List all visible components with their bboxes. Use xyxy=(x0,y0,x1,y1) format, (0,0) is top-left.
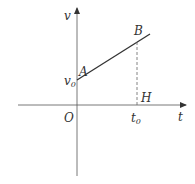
vt-diagram: v t O A B H v0 t0 xyxy=(0,0,195,184)
t0-label: t0 xyxy=(131,111,141,126)
point-a-label: A xyxy=(78,65,88,79)
t-axis-label: t xyxy=(178,110,183,124)
v-axis-label: v xyxy=(64,9,71,23)
point-h-label: H xyxy=(140,91,152,105)
v0-label: v0 xyxy=(64,74,76,89)
origin-label: O xyxy=(64,111,74,125)
velocity-line xyxy=(77,34,150,80)
point-b-label: B xyxy=(133,24,143,38)
